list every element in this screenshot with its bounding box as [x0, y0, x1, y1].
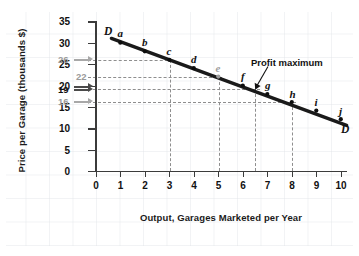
- point-label-b: b: [142, 36, 148, 48]
- point-label-h: h: [290, 88, 296, 100]
- x-axis-title: Output, Garages Marketed per Year: [96, 212, 346, 223]
- y-axis-title: Price per Garage (thousands $): [16, 26, 27, 176]
- point-label-c: c: [167, 45, 172, 57]
- data-point-e: [216, 75, 220, 79]
- chart-figure: 35 30 25 20 15 10 5 0 26 22 19: [0, 0, 359, 256]
- point-label-g: g: [265, 79, 271, 91]
- point-label-j: j: [339, 105, 342, 117]
- point-label-f: f: [241, 70, 245, 82]
- profit-maximum-annotation: Profit maximum: [251, 57, 323, 68]
- point-label-d: d: [191, 53, 197, 65]
- data-point-a: [118, 41, 122, 45]
- data-point-f: [241, 83, 245, 87]
- data-point-g: [265, 92, 269, 96]
- data-point-d: [192, 66, 196, 70]
- point-label-a: a: [118, 27, 124, 39]
- curve-label-bottom: D: [341, 123, 349, 135]
- plot-area: 35 30 25 20 15 10 5 0 26 22 19: [0, 0, 359, 256]
- data-point-h: [290, 100, 294, 104]
- data-point-c: [167, 58, 171, 62]
- point-label-e: e: [216, 62, 221, 74]
- data-point-j: [339, 117, 343, 121]
- data-point-b: [143, 49, 147, 53]
- curve-label-top: D: [104, 25, 112, 37]
- point-label-i: i: [315, 96, 318, 108]
- data-point-i: [314, 109, 318, 113]
